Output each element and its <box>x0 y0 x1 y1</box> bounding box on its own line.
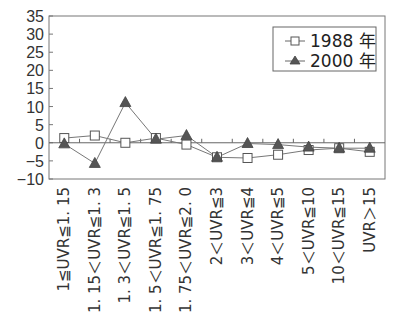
x-category-label: 1. 5＜UVR≦1. 75 <box>147 187 165 313</box>
y-tick-label: −5 <box>26 153 44 170</box>
square-marker-icon <box>121 138 130 147</box>
y-tick-label: 35 <box>26 8 44 25</box>
x-category-label: 2＜UVR≦3 <box>208 187 226 265</box>
y-axis-tick-labels: 35302520151050−5−10 <box>17 8 53 188</box>
legend-label-1988: 1988 年 <box>310 31 376 51</box>
square-marker-icon <box>90 131 99 140</box>
line-chart: 35302520151050−5−10 1≦UVR≦1. 151. 15＜UVR… <box>0 0 401 330</box>
y-tick-label: −10 <box>17 171 44 188</box>
x-category-label: 4＜UVR≦5 <box>269 187 287 265</box>
series-markers <box>59 97 375 168</box>
y-tick-label: 0 <box>35 135 44 152</box>
square-marker-icon <box>182 140 191 149</box>
y-tick-label: 25 <box>26 44 44 61</box>
x-axis-category-labels: 1≦UVR≦1. 151. 15＜UVR≦1. 31. 3＜UVR≦1. 51.… <box>55 187 378 313</box>
x-category-label: 1. 15＜UVR≦1. 3 <box>86 187 104 313</box>
x-category-label: 1. 75＜UVR≦2. 0 <box>177 187 195 313</box>
triangle-marker-icon <box>181 130 192 140</box>
triangle-marker-icon <box>120 97 131 107</box>
x-category-label: UVR＞15 <box>361 187 379 253</box>
legend-label-2000: 2000 年 <box>310 51 376 71</box>
x-category-label: 1≦UVR≦1. 15 <box>55 187 73 292</box>
triangle-marker-icon <box>89 157 100 167</box>
y-tick-label: 20 <box>26 62 44 79</box>
x-category-label: 10＜UVR≦15 <box>330 187 348 284</box>
y-tick-label: 30 <box>26 26 44 43</box>
square-marker-icon <box>274 150 283 159</box>
x-category-label: 5＜UVR≦10 <box>300 187 318 275</box>
triangle-marker-icon <box>273 139 284 149</box>
square-marker-icon <box>243 153 252 162</box>
legend: 1988 年 2000 年 <box>273 27 376 71</box>
y-tick-label: 5 <box>35 117 44 134</box>
x-category-label: 3＜UVR≦4 <box>239 187 257 265</box>
y-tick-label: 15 <box>26 80 44 97</box>
x-category-label: 1. 3＜UVR≦1. 5 <box>116 187 134 303</box>
y-tick-label: 10 <box>26 99 44 116</box>
square-marker-icon <box>291 37 299 45</box>
